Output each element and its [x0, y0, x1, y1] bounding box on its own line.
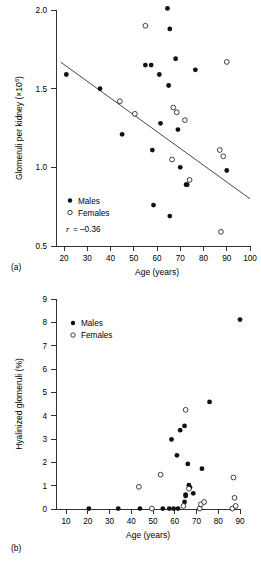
datapoint-male	[169, 437, 174, 442]
y-tick-label-b-4: 4	[42, 412, 47, 421]
chart-b-x-ticks: 102030405060708090	[61, 509, 245, 526]
y-tick-label-b-1: 1	[42, 482, 47, 491]
datapoint-female	[224, 60, 229, 65]
datapoint-male	[185, 462, 190, 467]
datapoint-male	[176, 127, 181, 132]
datapoint-male	[98, 86, 103, 91]
chart-a-svg: 0.5 1.0 1.5 2.0 20 30 40 50 60	[0, 0, 261, 281]
datapoint-female	[202, 500, 207, 505]
x-tick-label-a-5: 70	[176, 254, 186, 263]
legend-label-males-b: Males	[81, 319, 103, 328]
legend-label-males-a: Males	[78, 197, 100, 206]
x-tick-label-b-8: 90	[235, 517, 245, 526]
legend-label-females-b: Females	[81, 331, 112, 340]
datapoint-male	[185, 182, 190, 187]
y-axis-title-a-base: Glomeruli per kidney (×10	[14, 82, 24, 180]
x-tick-label-a-4: 60	[152, 254, 162, 263]
y-axis-title-a-tail: )	[14, 76, 24, 79]
panel-label-b: (b)	[11, 543, 21, 553]
panel-a: 0.5 1.0 1.5 2.0 20 30 40 50 60	[0, 0, 261, 281]
chart-b-y-ticks: 0123456789	[42, 295, 56, 514]
datapoint-male	[143, 63, 148, 68]
legend-label-females-a: Females	[78, 209, 109, 218]
y-axis-title-b: Hyalinized glomeruli (%)	[14, 358, 24, 450]
datapoint-male	[200, 466, 205, 471]
datapoint-male	[166, 83, 171, 88]
datapoint-male	[167, 214, 172, 219]
x-tick-label-a-7: 90	[222, 254, 232, 263]
y-tick-label-a-1: 1.0	[36, 163, 48, 172]
y-tick-label-b-9: 9	[42, 295, 47, 304]
x-tick-label-a-3: 50	[129, 254, 139, 263]
x-tick-label-b-1: 20	[83, 517, 93, 526]
datapoint-female	[232, 495, 237, 500]
datapoint-male	[178, 428, 183, 433]
x-tick-label-a-0: 20	[59, 254, 69, 263]
datapoint-male	[176, 506, 181, 511]
datapoint-male	[64, 72, 69, 77]
datapoint-female	[186, 486, 191, 491]
datapoint-female	[183, 407, 188, 412]
y-tick-label-b-2: 2	[42, 458, 47, 467]
x-axis-title-b: Age (years)	[126, 530, 170, 540]
chart-b-svg: 0123456789 102030405060708090 Age (years…	[0, 281, 261, 562]
y-tick-label-b-5: 5	[42, 388, 47, 397]
legend-marker-males-b	[71, 321, 75, 325]
datapoint-male	[149, 63, 154, 68]
x-tick-label-b-3: 40	[127, 517, 137, 526]
datapoint-male	[183, 492, 188, 497]
datapoint-female	[117, 99, 122, 104]
x-axis-title-a: Age (years)	[135, 267, 179, 277]
y-tick-label-a-0: 0.5	[36, 242, 48, 251]
x-tick-label-a-2: 40	[106, 254, 116, 263]
chart-a-legend: Males Females r = –0.36	[66, 197, 109, 235]
datapoint-male	[224, 168, 229, 173]
y-axis-title-a: Glomeruli per kidney (×106)	[14, 76, 24, 180]
datapoint-male	[157, 72, 162, 77]
datapoint-male	[167, 506, 172, 511]
legend-marker-males-a	[68, 198, 72, 202]
panel-b: 0123456789 102030405060708090 Age (years…	[0, 281, 261, 562]
datapoint-female	[174, 110, 179, 115]
datapoint-male	[86, 506, 91, 511]
datapoint-male	[238, 317, 243, 322]
chart-b-datapoints	[86, 317, 242, 511]
datapoint-male	[193, 67, 198, 72]
x-tick-label-b-0: 10	[61, 517, 71, 526]
datapoint-female	[170, 157, 175, 162]
x-tick-label-b-2: 30	[105, 517, 115, 526]
datapoint-male	[158, 121, 163, 126]
datapoint-male	[175, 453, 180, 458]
correlation-value-a: = –0.36	[73, 225, 101, 234]
x-tick-label-b-5: 60	[170, 517, 180, 526]
datapoint-female	[217, 148, 222, 153]
datapoint-female	[143, 23, 148, 28]
datapoint-male	[207, 400, 212, 405]
datapoint-male	[167, 26, 172, 31]
panel-label-a: (a)	[11, 262, 21, 272]
datapoint-female	[171, 105, 176, 110]
datapoint-male	[116, 506, 121, 511]
x-tick-label-a-1: 30	[83, 254, 93, 263]
datapoint-female	[150, 506, 155, 511]
datapoint-male	[151, 203, 156, 208]
figure-container: 0.5 1.0 1.5 2.0 20 30 40 50 60	[0, 0, 261, 562]
datapoint-male	[160, 506, 165, 511]
chart-b-legend: Males Females	[71, 319, 113, 340]
datapoint-male	[173, 56, 178, 61]
datapoint-male	[120, 132, 125, 137]
legend-marker-females-a	[68, 210, 72, 214]
datapoint-male	[171, 506, 176, 511]
correlation-symbol-a: r	[66, 224, 70, 234]
x-tick-label-b-4: 50	[148, 517, 158, 526]
datapoint-male	[150, 148, 155, 153]
x-tick-label-a-8: 100	[243, 254, 257, 263]
x-tick-label-b-7: 80	[214, 517, 224, 526]
datapoint-female	[187, 178, 192, 183]
x-tick-label-a-6: 80	[199, 254, 209, 263]
datapoint-female	[181, 504, 186, 509]
y-tick-label-b-0: 0	[42, 505, 47, 514]
datapoint-female	[221, 154, 226, 159]
datapoint-female	[219, 229, 224, 234]
chart-a-y-ticks: 0.5 1.0 1.5 2.0	[36, 6, 56, 251]
